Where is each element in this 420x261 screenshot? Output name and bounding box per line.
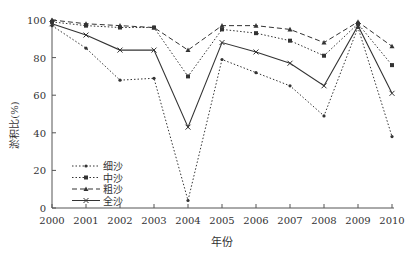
series-1 <box>50 20 394 79</box>
legend-item: 全沙 <box>72 195 123 207</box>
x-tick-label: 2007 <box>277 215 302 226</box>
data-series <box>50 17 395 202</box>
legend-item: 细沙 <box>72 160 123 172</box>
sediment-deposition-chart: 020406080100 200020012002200320042005200… <box>0 0 420 261</box>
y-tick-label: 40 <box>33 128 46 139</box>
series-0 <box>50 24 393 202</box>
x-tick-label: 2010 <box>379 215 404 226</box>
y-tick-label: 0 <box>40 203 46 214</box>
x-tick-label: 2003 <box>141 215 166 226</box>
x-tick-label: 2002 <box>107 215 132 226</box>
y-tick-label: 60 <box>33 90 46 101</box>
y-tick-label: 20 <box>33 165 46 176</box>
legend-item: 中沙 <box>72 172 123 184</box>
legend: 细沙中沙粗沙全沙 <box>72 160 123 207</box>
legend-label: 粗沙 <box>103 184 123 195</box>
x-tick-label: 2001 <box>73 215 98 226</box>
legend-label: 全沙 <box>103 195 123 207</box>
legend-label: 细沙 <box>103 160 123 172</box>
x-tick-label: 2008 <box>311 215 336 226</box>
y-tick-label: 80 <box>33 53 46 64</box>
x-tick-label: 2009 <box>345 215 370 226</box>
y-axis-label: 淤积比(%) <box>9 101 20 148</box>
x-axis-ticks: 2000200120022003200420052006200720082009… <box>39 204 404 226</box>
plot-area: 020406080100 200020012002200320042005200… <box>27 15 405 226</box>
x-axis-label: 年份 <box>211 235 233 249</box>
x-tick-label: 2006 <box>243 215 268 226</box>
series-3 <box>50 21 395 129</box>
x-tick-label: 2005 <box>209 215 234 226</box>
y-tick-label: 100 <box>27 15 46 26</box>
x-tick-label: 2004 <box>175 215 200 226</box>
legend-item: 粗沙 <box>72 184 123 195</box>
x-tick-label: 2000 <box>39 215 64 226</box>
legend-label: 中沙 <box>103 172 123 184</box>
series-2 <box>50 17 395 52</box>
